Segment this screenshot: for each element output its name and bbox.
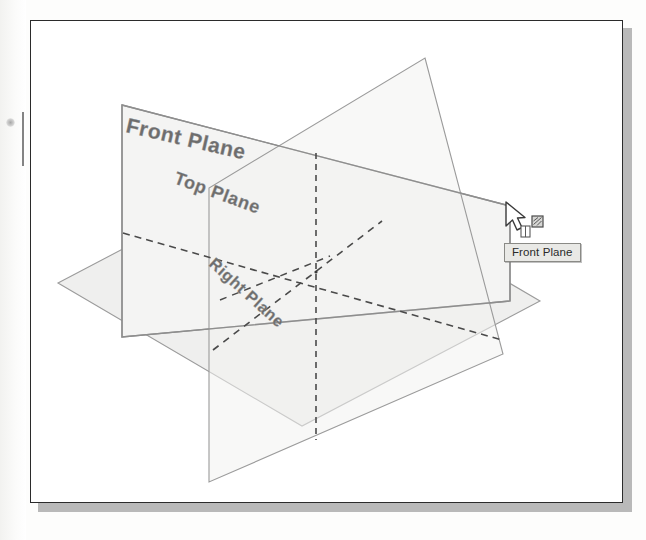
scan-speck-artifact [6,118,15,127]
figure-stage: Front Plane Top Plane Right Plane [0,0,646,540]
scan-edge-artifact [0,0,26,540]
plane-tooltip: Front Plane [504,243,581,262]
scan-line-artifact [22,112,24,166]
plane-tooltip-label: Front Plane [512,246,573,258]
origin-point [314,270,317,273]
